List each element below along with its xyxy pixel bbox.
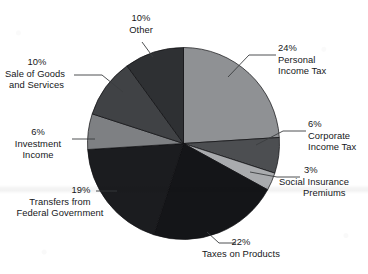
label-taxes-on-products: 22% Taxes on Products — [176, 236, 306, 259]
label-sale-of-goods-and-services: 10% Sale of Goods and Services — [2, 56, 72, 91]
pie-slices-group — [88, 48, 280, 240]
label-investment-income-line1: Investment — [6, 138, 70, 150]
label-sale-of-goods-line2: and Services — [1, 79, 72, 91]
label-personal-income-tax-line1: Personal — [278, 54, 326, 66]
label-corporate-income-tax-line1: Corporate — [308, 130, 356, 142]
label-taxes-on-products-line1: Taxes on Products — [176, 248, 306, 260]
label-transfers-line1: Transfers from — [4, 196, 116, 208]
label-social-insurance-premiums-line1: Social Insurance — [279, 176, 349, 188]
label-sale-of-goods-percent: 10% — [2, 56, 72, 68]
label-investment-income: 6% Investment Income — [6, 126, 70, 161]
label-corporate-income-tax: 6% Corporate Income Tax — [308, 118, 356, 153]
label-sale-of-goods-line1: Sale of Goods — [0, 68, 72, 80]
label-social-insurance-premiums-line2: Premiums — [303, 187, 349, 199]
label-transfers-from-federal-government: 19% Transfers from Federal Government — [4, 184, 116, 219]
label-other: 10% Other — [104, 12, 178, 35]
label-social-insurance-premiums-percent: 3% — [304, 164, 349, 176]
label-corporate-income-tax-line2: Income Tax — [308, 141, 356, 153]
label-personal-income-tax-percent: 24% — [278, 42, 326, 54]
label-other-line1: Other — [104, 24, 178, 36]
label-transfers-percent: 19% — [46, 184, 116, 196]
label-other-percent: 10% — [104, 12, 178, 24]
pie-chart-figure: 24% Personal Income Tax 6% Corporate Inc… — [0, 0, 368, 274]
pie-slice-personal-income-tax[interactable] — [184, 48, 280, 144]
label-personal-income-tax: 24% Personal Income Tax — [278, 42, 326, 77]
label-investment-income-percent: 6% — [6, 126, 70, 138]
label-corporate-income-tax-percent: 6% — [308, 118, 356, 130]
label-taxes-on-products-percent: 22% — [176, 236, 306, 248]
label-personal-income-tax-line2: Income Tax — [278, 65, 326, 77]
label-transfers-line2: Federal Government — [4, 207, 116, 219]
label-investment-income-line2: Income — [6, 149, 70, 161]
label-social-insurance-premiums: 3% Social Insurance Premiums — [279, 164, 349, 199]
